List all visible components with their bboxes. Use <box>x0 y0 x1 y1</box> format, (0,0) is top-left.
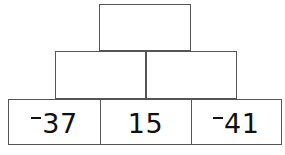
pyramid-cell-number: 15 <box>128 110 163 137</box>
pyramid-cell-number: 37 <box>42 110 77 137</box>
pyramid-cell-top-0[interactable] <box>99 4 191 51</box>
pyramid-cell-value: 37 <box>31 110 78 137</box>
pyramid-cell-value: 41 <box>213 110 260 137</box>
raised-minus-icon <box>213 117 223 120</box>
pyramid-cell-bottom-0[interactable]: 37 <box>8 99 101 145</box>
number-pyramid-figure: 37 15 41 <box>0 0 285 155</box>
pyramid-cell-middle-0[interactable] <box>55 51 146 99</box>
pyramid-cell-middle-1[interactable] <box>146 51 238 99</box>
pyramid-cell-bottom-2[interactable]: 41 <box>191 99 282 145</box>
pyramid-cell-number: 41 <box>224 110 259 137</box>
pyramid-cell-value: 15 <box>128 110 163 137</box>
pyramid-cell-bottom-1[interactable]: 15 <box>100 99 192 145</box>
raised-minus-icon <box>31 117 41 120</box>
